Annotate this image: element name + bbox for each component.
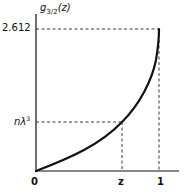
x-tick-z: z [118, 176, 124, 187]
y-tick-2612: 2.612 [2, 22, 31, 33]
curve-g32 [36, 29, 159, 171]
x-tick-1: 1 [157, 176, 164, 187]
y-axis-label: g3/2(z) [40, 2, 71, 16]
x-tick-0: 0 [31, 176, 38, 187]
y-tick-n-lambda-cubed: nλ3 [14, 115, 30, 127]
